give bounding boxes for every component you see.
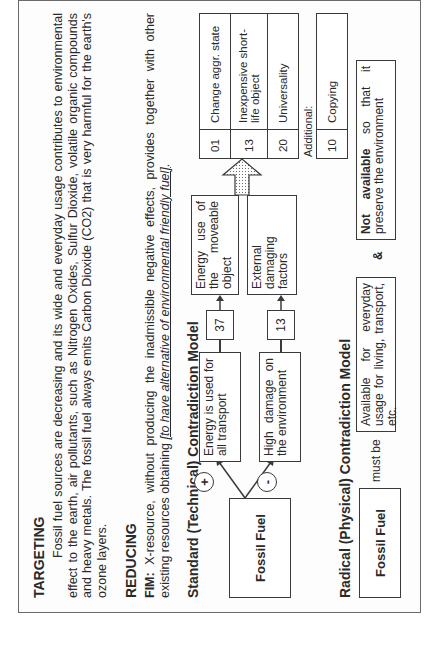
principle-number: 01 <box>200 130 231 159</box>
radical-fossil-fuel-box: Fossil Fuel <box>359 488 401 598</box>
principle-row: 01 Change aggr. state <box>200 14 231 159</box>
principle-label: Universality <box>268 14 299 130</box>
fim-statement: FIM: X-resource, without producing the i… <box>143 13 172 598</box>
fim-label: FIM: <box>143 572 157 598</box>
principle-row: 13 Inexpensive short-life object <box>231 14 268 159</box>
principle-number: 13 <box>231 130 268 159</box>
minus-sign: - <box>257 472 277 492</box>
targeting-paragraph: Fossil fuel sources are decreasing and i… <box>51 13 109 598</box>
negative-param-box: External damaging factors <box>247 195 297 295</box>
radical-model-title: Radical (Physical) Contradiction Model <box>337 339 353 598</box>
document-page: TARGETING Fossil fuel sources are decrea… <box>18 0 421 613</box>
requirement-b-bold: Not available <box>359 149 373 234</box>
targeting-heading: TARGETING <box>31 517 47 598</box>
negative-param-number: 13 <box>267 310 295 340</box>
must-be-label: must be <box>369 439 383 482</box>
fim-underlined-goal: [to have alternative of environmental fr… <box>158 167 172 439</box>
fim-end: . <box>158 164 172 167</box>
requirement-available-box: Available for everyday usage for living,… <box>356 277 396 432</box>
param-arrows <box>214 294 294 310</box>
resolution-arrow-icon <box>217 157 267 197</box>
positive-param-box: Energy use of the moveable object <box>191 195 239 295</box>
fossil-fuel-box: Fossil Fuel <box>229 498 291 598</box>
additional-label: Additional: <box>302 106 314 157</box>
positive-effect-box: Energy is used for all transport <box>199 352 241 462</box>
principle-label: Copying <box>317 14 348 130</box>
reducing-heading: REDUCING <box>123 523 139 598</box>
negative-effect-box: High damage on the environment <box>259 352 301 462</box>
plus-sign: + <box>194 472 214 492</box>
principle-number: 20 <box>268 130 299 159</box>
principle-row: 20 Universality <box>268 14 299 159</box>
principles-table: 01 Change aggr. state 13 Inexpensive sho… <box>199 13 299 159</box>
additional-principles-table: 10 Copying <box>316 13 348 159</box>
principle-row: 10 Copying <box>317 14 348 159</box>
principle-label: Inexpensive short-life object <box>231 14 268 130</box>
requirement-not-available-box: Not available so that it preserve the en… <box>356 60 396 240</box>
requirement-a-text: Available for everyday usage for living,… <box>359 283 399 426</box>
principle-label: Change aggr. state <box>200 14 231 130</box>
principle-number: 10 <box>317 130 348 159</box>
positive-param-number: 37 <box>206 310 234 340</box>
ampersand: & <box>371 251 385 260</box>
